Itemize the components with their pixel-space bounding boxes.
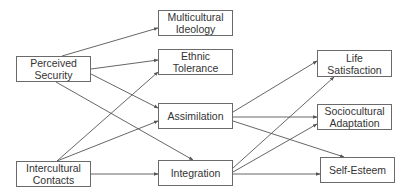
node-ethnic-tolerance: Ethnic Tolerance [158, 49, 233, 75]
node-label: Perceived Security [30, 57, 77, 81]
node-label: Intercultural Contacts [26, 162, 81, 186]
edge-security-to-assimilation [91, 74, 158, 108]
node-label: Multicultural Ideology [167, 11, 223, 35]
path-diagram: Perceived Security Multicultural Ideolog… [0, 0, 408, 193]
node-perceived-security: Perceived Security [16, 56, 91, 82]
edge-contacts-to-assimilation [57, 121, 158, 161]
node-self-esteem: Self-Esteem [320, 157, 395, 183]
node-label: Ethnic Tolerance [173, 50, 219, 74]
edge-security-to-ideology [62, 28, 158, 56]
node-label: Sociocultural Adaptation [324, 105, 384, 129]
node-label: Assimilation [167, 110, 223, 122]
node-label: Life Satisfaction [327, 52, 381, 76]
node-sociocultural-adaptation: Sociocultural Adaptation [317, 104, 392, 130]
edge-security-to-tolerance [91, 60, 158, 69]
node-intercultural-contacts: Intercultural Contacts [16, 161, 91, 187]
node-life-satisfaction: Life Satisfaction [317, 50, 392, 77]
node-multicultural-ideology: Multicultural Ideology [158, 10, 233, 36]
edge-contacts-to-tolerance [57, 72, 158, 161]
edge-integration-to-sociocultural [233, 124, 317, 172]
edge-assimilation-to-life-satisfaction [233, 61, 317, 112]
node-label: Integration [171, 167, 221, 179]
node-label: Self-Esteem [329, 164, 386, 176]
node-integration: Integration [158, 160, 233, 186]
node-assimilation: Assimilation [158, 103, 233, 129]
